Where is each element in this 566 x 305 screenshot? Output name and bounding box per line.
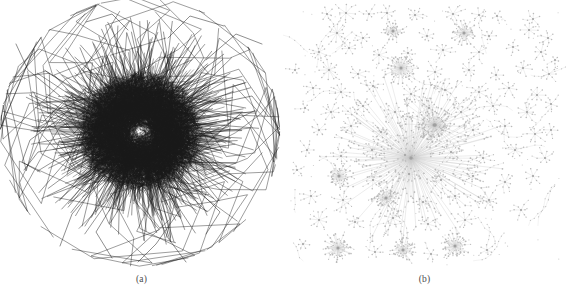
- panel-a-hairball-layout: (a): [0, 0, 283, 305]
- figure-root: (a) (b): [0, 0, 566, 305]
- panel-a-caption: (a): [0, 274, 283, 284]
- panel-b-graph-drawing: [283, 0, 566, 275]
- panel-b-radial-hub-layout: (b): [283, 0, 566, 305]
- panel-a-graph-drawing: [0, 0, 283, 275]
- panel-b-caption: (b): [283, 274, 566, 284]
